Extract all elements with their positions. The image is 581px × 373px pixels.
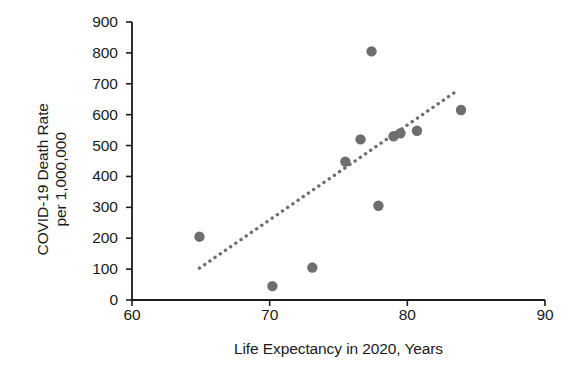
axis-spines	[132, 22, 545, 300]
data-point	[395, 128, 405, 138]
data-point	[340, 156, 350, 166]
trendline	[199, 90, 458, 268]
scatter-chart-figure: COVID-19 Death Rate per 1,000,000 010020…	[0, 0, 581, 373]
data-point	[366, 46, 376, 56]
data-point	[267, 281, 277, 291]
data-point	[307, 262, 317, 272]
data-point	[456, 105, 466, 115]
data-point	[355, 134, 365, 144]
plot-area	[0, 0, 581, 373]
data-point	[412, 126, 422, 136]
data-point	[194, 231, 204, 241]
data-point	[373, 201, 383, 211]
